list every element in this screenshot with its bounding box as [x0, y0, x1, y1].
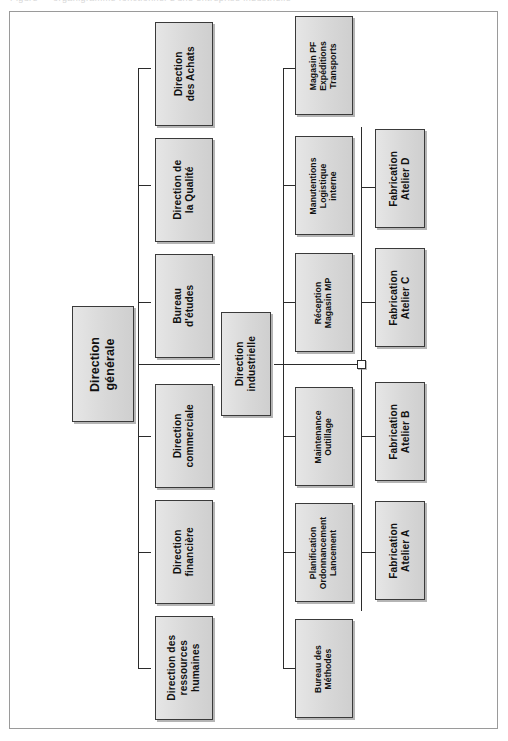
connector-stub-manu [283, 185, 295, 186]
node-label: Réception Magasin MP [314, 277, 334, 328]
connector-stub-fabB [361, 436, 375, 437]
node-direction-industrielle[interactable]: Direction industrielle [221, 312, 271, 416]
node-direction-commerciale[interactable]: Direction commerciale [155, 384, 213, 488]
connector-stub-bmeth [283, 668, 295, 669]
node-reception-magasin-mp[interactable]: Réception Magasin MP [295, 253, 353, 352]
node-label: Planification Ordonnancement Lancement [309, 516, 339, 589]
node-fabrication-atelier-b[interactable]: Fabrication Atelier B [375, 382, 425, 481]
connector-stub-fabtrunk [283, 364, 361, 365]
node-bureau-des-methodes[interactable]: Bureau des Méthodes [295, 619, 353, 718]
organigramme-page: Figure — organigramme fonctionnel d'une … [0, 0, 508, 741]
node-direction-des-achats[interactable]: Direction des Achats [155, 22, 213, 126]
node-fabrication-atelier-a[interactable]: Fabrication Atelier A [375, 501, 425, 600]
node-direction-de-la-qualite[interactable]: Direction de la Qualité [155, 138, 213, 242]
connector-fabrication-trunk [361, 127, 362, 611]
connector-stub-mag [283, 68, 295, 69]
connector-stub-dcom [138, 436, 151, 437]
node-label: Manutentions Logistique interne [309, 157, 339, 214]
node-label: Direction des Achats [172, 47, 196, 102]
node-label: Direction commerciale [172, 404, 196, 467]
node-label: Direction de la Qualité [172, 160, 196, 220]
node-label: Direction financière [172, 527, 196, 576]
connector-stub-fabD [361, 187, 375, 188]
node-label: Bureau des Méthodes [314, 645, 334, 693]
connector-stub-pol [283, 552, 295, 553]
connector-stub-recep [283, 302, 295, 303]
top-caption-sliver: Figure — organigramme fonctionnel d'une … [0, 0, 508, 6]
connector-stub-fabA [361, 552, 375, 553]
node-label: Direction industrielle [234, 336, 258, 392]
node-label: Maintenance Outillage [314, 410, 334, 463]
connector-stub-dach [138, 68, 151, 69]
connector-stub-drh [138, 668, 151, 669]
chart-frame: Direction générale Direction des Achats … [9, 11, 498, 729]
junction-square [357, 360, 366, 369]
node-label: Fabrication Atelier D [388, 150, 412, 206]
node-direction-generale[interactable]: Direction générale [72, 306, 134, 422]
connector-stub-dind [138, 364, 220, 365]
node-bureau-detudes[interactable]: Bureau d'études [155, 254, 213, 358]
node-direction-financiere[interactable]: Direction financière [155, 500, 213, 604]
node-fabrication-atelier-c[interactable]: Fabrication Atelier C [375, 248, 425, 347]
node-fabrication-atelier-d[interactable]: Fabrication Atelier D [375, 129, 425, 228]
connector-stub-maint [283, 436, 295, 437]
node-planification-ordonnancement-lancement[interactable]: Planification Ordonnancement Lancement [295, 503, 353, 602]
connector-stub-dfin [138, 552, 151, 553]
node-label: Direction des ressources humaines [166, 635, 201, 701]
connector-level2-trunk [283, 68, 284, 668]
node-direction-des-ressources-humaines[interactable]: Direction des ressources humaines [155, 616, 213, 720]
connector-stub-fabC [361, 302, 375, 303]
node-label: Fabrication Atelier C [388, 269, 412, 325]
top-caption-text: Figure — organigramme fonctionnel d'une … [10, 0, 291, 3]
node-label: Fabrication Atelier A [388, 522, 412, 578]
node-manutentions-logistique-interne[interactable]: Manutentions Logistique interne [295, 136, 353, 235]
node-magasin-pf-expeditions-transports[interactable]: Magasin PF Expéditions Transports [295, 16, 353, 115]
node-label: Direction générale [88, 336, 117, 391]
connector-stub-bet [138, 302, 151, 303]
connector-stub-dqual [138, 185, 151, 186]
node-label: Bureau d'études [172, 285, 196, 327]
node-label: Magasin PF Expéditions Transports [309, 41, 339, 91]
node-label: Fabrication Atelier B [388, 403, 412, 459]
node-maintenance-outillage[interactable]: Maintenance Outillage [295, 387, 353, 486]
connector-level1-trunk [138, 68, 139, 668]
